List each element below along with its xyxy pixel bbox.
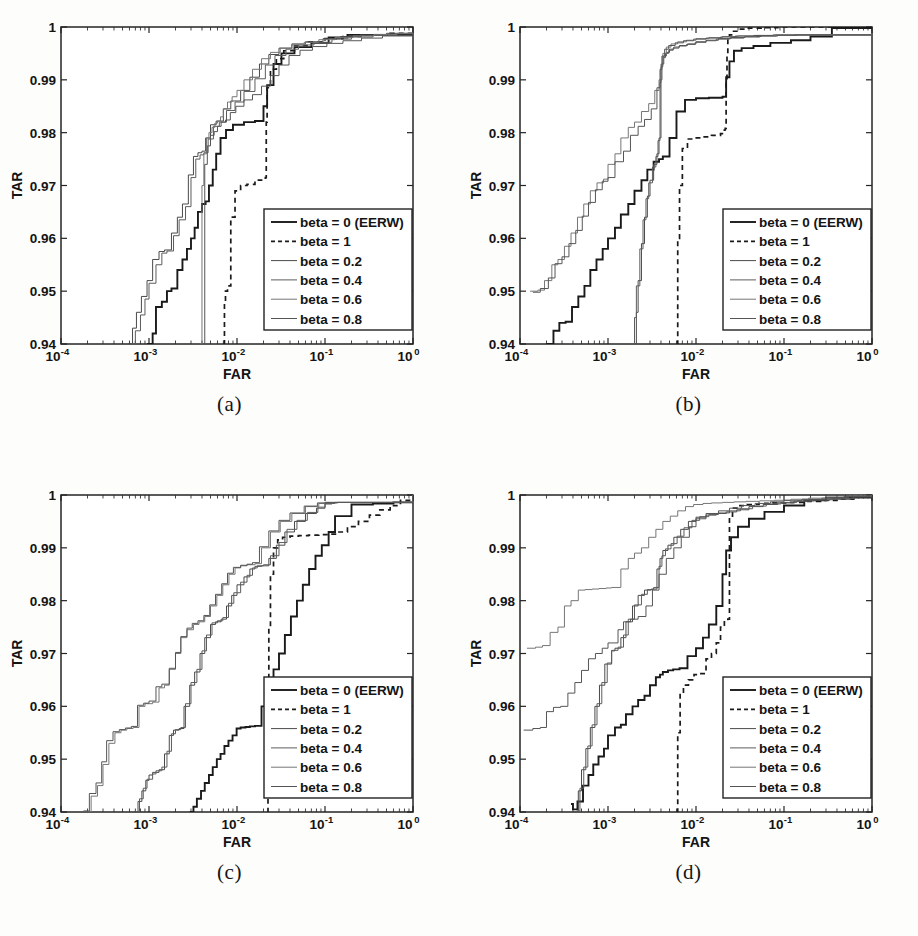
svg-text:10: 10: [592, 817, 607, 832]
svg-text:10: 10: [397, 349, 412, 364]
svg-text:0.95: 0.95: [489, 752, 516, 767]
svg-text:beta = 0 (EERW): beta = 0 (EERW): [759, 683, 863, 698]
panel-caption-c: (c): [0, 860, 459, 885]
svg-text:beta = 0.6: beta = 0.6: [759, 760, 821, 775]
svg-text:10: 10: [309, 817, 324, 832]
svg-text:10: 10: [397, 817, 412, 832]
svg-text:-3: -3: [149, 346, 157, 357]
svg-text:0.96: 0.96: [30, 699, 57, 714]
svg-text:0: 0: [873, 346, 878, 357]
plot-d: 10-410-310-210-1100FAR0.940.950.960.970.…: [459, 468, 918, 860]
svg-text:10: 10: [768, 349, 783, 364]
svg-text:0.94: 0.94: [489, 337, 516, 352]
svg-text:0.98: 0.98: [30, 594, 57, 609]
svg-text:10: 10: [768, 817, 783, 832]
svg-text:-4: -4: [61, 814, 70, 825]
svg-text:beta = 0 (EERW): beta = 0 (EERW): [300, 683, 404, 698]
svg-text:0: 0: [414, 346, 419, 357]
svg-text:10: 10: [856, 349, 871, 364]
svg-text:-1: -1: [325, 814, 334, 825]
svg-text:beta = 0.4: beta = 0.4: [759, 741, 821, 756]
svg-text:beta = 0.6: beta = 0.6: [300, 760, 362, 775]
svg-text:-2: -2: [696, 346, 704, 357]
svg-text:beta = 0.8: beta = 0.8: [300, 780, 362, 795]
svg-text:0.99: 0.99: [489, 541, 515, 556]
svg-text:0.95: 0.95: [30, 752, 57, 767]
svg-text:10: 10: [309, 349, 324, 364]
svg-text:beta = 0.8: beta = 0.8: [759, 780, 821, 795]
svg-text:TAR: TAR: [468, 640, 484, 668]
svg-text:1: 1: [507, 488, 515, 503]
svg-text:0.96: 0.96: [489, 699, 516, 714]
svg-text:beta = 0 (EERW): beta = 0 (EERW): [759, 215, 863, 230]
svg-text:beta = 0.6: beta = 0.6: [300, 292, 362, 307]
svg-text:0: 0: [414, 814, 419, 825]
svg-text:-3: -3: [149, 814, 157, 825]
svg-text:-3: -3: [608, 346, 616, 357]
svg-text:0.97: 0.97: [489, 179, 515, 194]
svg-text:10: 10: [592, 349, 607, 364]
svg-text:beta = 0.4: beta = 0.4: [300, 741, 362, 756]
svg-text:0: 0: [873, 814, 878, 825]
plot-c: 10-410-310-210-1100FAR0.940.950.960.970.…: [0, 468, 459, 860]
svg-text:beta = 0.2: beta = 0.2: [300, 722, 362, 737]
svg-text:0.98: 0.98: [489, 126, 516, 141]
svg-text:0.98: 0.98: [489, 594, 516, 609]
panel-caption-d: (d): [459, 860, 918, 885]
svg-text:0.94: 0.94: [30, 337, 57, 352]
svg-text:beta = 0.8: beta = 0.8: [300, 312, 362, 327]
plot-a: 10-410-310-210-1100FAR0.940.950.960.970.…: [0, 0, 459, 392]
svg-text:-4: -4: [520, 814, 529, 825]
panel-caption-b: (b): [459, 392, 918, 417]
svg-text:beta = 0.2: beta = 0.2: [759, 254, 821, 269]
svg-text:beta = 0.2: beta = 0.2: [759, 722, 821, 737]
svg-text:0.97: 0.97: [30, 647, 56, 662]
svg-text:FAR: FAR: [682, 366, 710, 382]
svg-text:-2: -2: [237, 346, 245, 357]
svg-text:-1: -1: [784, 346, 793, 357]
svg-text:1: 1: [507, 20, 515, 35]
svg-text:10: 10: [221, 817, 236, 832]
svg-text:10: 10: [680, 349, 695, 364]
plot-b: 10-410-310-210-1100FAR0.940.950.960.970.…: [459, 0, 918, 392]
panel-caption-a: (a): [0, 392, 459, 417]
svg-text:0.95: 0.95: [30, 284, 57, 299]
svg-text:-1: -1: [784, 814, 793, 825]
svg-text:0.99: 0.99: [30, 541, 56, 556]
svg-text:0.99: 0.99: [489, 73, 515, 88]
svg-text:beta = 0 (EERW): beta = 0 (EERW): [300, 215, 404, 230]
svg-text:1: 1: [48, 488, 56, 503]
svg-text:-3: -3: [608, 814, 616, 825]
svg-text:0.99: 0.99: [30, 73, 56, 88]
svg-text:beta = 0.8: beta = 0.8: [759, 312, 821, 327]
svg-text:0.97: 0.97: [30, 179, 56, 194]
svg-text:beta = 1: beta = 1: [300, 234, 351, 249]
svg-text:beta = 1: beta = 1: [759, 234, 810, 249]
svg-text:TAR: TAR: [468, 172, 484, 200]
svg-text:TAR: TAR: [9, 172, 25, 200]
svg-text:0.96: 0.96: [30, 231, 57, 246]
svg-text:10: 10: [221, 349, 236, 364]
svg-text:-2: -2: [696, 814, 704, 825]
svg-text:10: 10: [133, 349, 148, 364]
svg-text:0.95: 0.95: [489, 284, 516, 299]
svg-text:1: 1: [48, 20, 56, 35]
svg-text:beta = 0.4: beta = 0.4: [300, 273, 362, 288]
svg-text:10: 10: [680, 817, 695, 832]
svg-text:0.94: 0.94: [30, 805, 57, 820]
svg-text:beta = 0.6: beta = 0.6: [759, 292, 821, 307]
svg-text:FAR: FAR: [223, 366, 251, 382]
svg-text:FAR: FAR: [682, 834, 710, 850]
svg-text:-2: -2: [237, 814, 245, 825]
svg-text:0.94: 0.94: [489, 805, 516, 820]
svg-text:-4: -4: [61, 346, 70, 357]
svg-text:beta = 0.4: beta = 0.4: [759, 273, 821, 288]
svg-text:-4: -4: [520, 346, 529, 357]
svg-text:0.96: 0.96: [489, 231, 516, 246]
svg-text:10: 10: [856, 817, 871, 832]
panel-a: 10-410-310-210-1100FAR0.940.950.960.970.…: [0, 0, 459, 468]
svg-text:beta = 1: beta = 1: [300, 702, 351, 717]
svg-text:0.97: 0.97: [489, 647, 515, 662]
svg-text:0.98: 0.98: [30, 126, 57, 141]
svg-text:FAR: FAR: [223, 834, 251, 850]
